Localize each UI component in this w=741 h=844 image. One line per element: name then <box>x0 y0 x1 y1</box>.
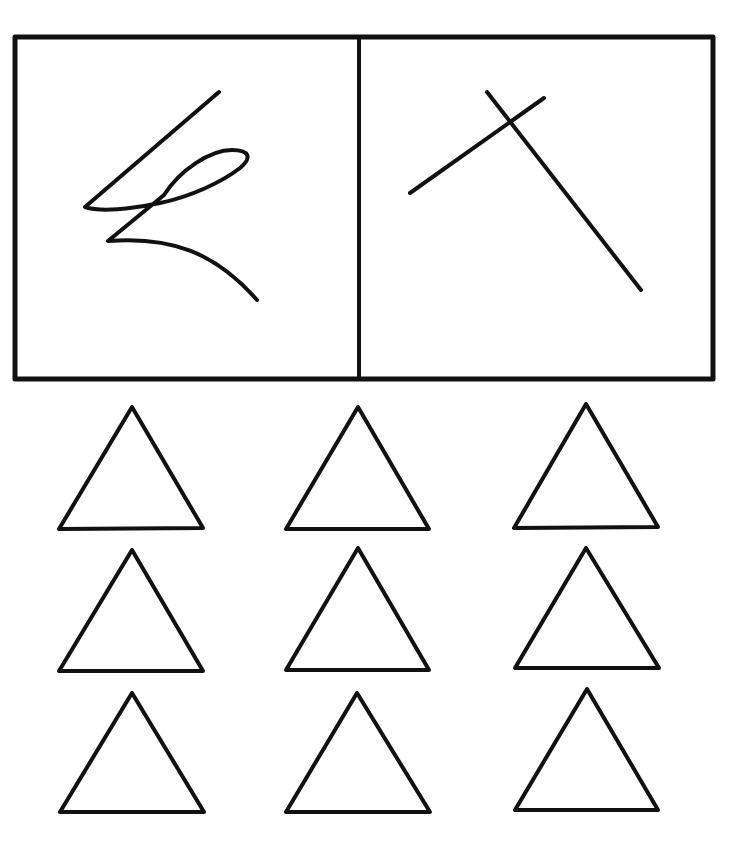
triangle <box>60 693 204 812</box>
triangle <box>515 689 658 810</box>
right-panel-drawing <box>410 92 641 290</box>
triangle <box>286 548 429 670</box>
stimulus-figure <box>0 0 741 844</box>
triangle <box>59 550 203 671</box>
triangle <box>286 693 430 812</box>
triangle <box>514 404 658 528</box>
left-panel-drawing <box>85 92 257 300</box>
triangle <box>59 407 203 529</box>
triangle-grid <box>59 404 659 812</box>
triangle <box>515 548 659 668</box>
triangle <box>286 407 429 529</box>
